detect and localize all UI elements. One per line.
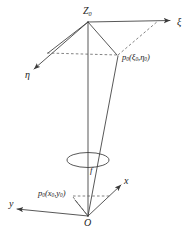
axis-eta-label: η (25, 70, 30, 80)
object-point-label: p0(ξ0,η0) (122, 53, 150, 62)
apex-to-object-edge (88, 22, 117, 55)
axis-xi-label: ξ (177, 17, 181, 27)
optical-geometry-diagram: Z0 ξ η p0(ξ0,η0) f p0(x0,y0) x y O (0, 0, 188, 234)
axis-y-line (17, 209, 88, 216)
dashed-eta-to-object (47, 53, 118, 55)
origin-label: O (84, 218, 91, 228)
apex-label: Z0 (83, 6, 92, 16)
focal-length-label: f (90, 166, 93, 175)
axis-x-label: x (124, 176, 128, 186)
dashed-object-to-xi (118, 21, 158, 55)
image-point-label: p0(x0,y0) (38, 189, 66, 198)
apex-to-eta-corner-edge (48, 22, 88, 53)
axis-y-label: y (9, 199, 13, 209)
diagram-canvas (0, 0, 188, 234)
axis-xi-line (88, 21, 170, 23)
axis-eta-line (34, 22, 88, 69)
